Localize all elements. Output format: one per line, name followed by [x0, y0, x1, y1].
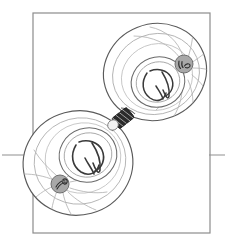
lower-centrosome-badge — [51, 175, 69, 193]
figure-canvas — [0, 0, 227, 246]
upper-centrosome-badge — [175, 55, 193, 73]
cytokinesis-diagram — [0, 0, 227, 246]
upper-centrosome-disc — [175, 55, 193, 73]
